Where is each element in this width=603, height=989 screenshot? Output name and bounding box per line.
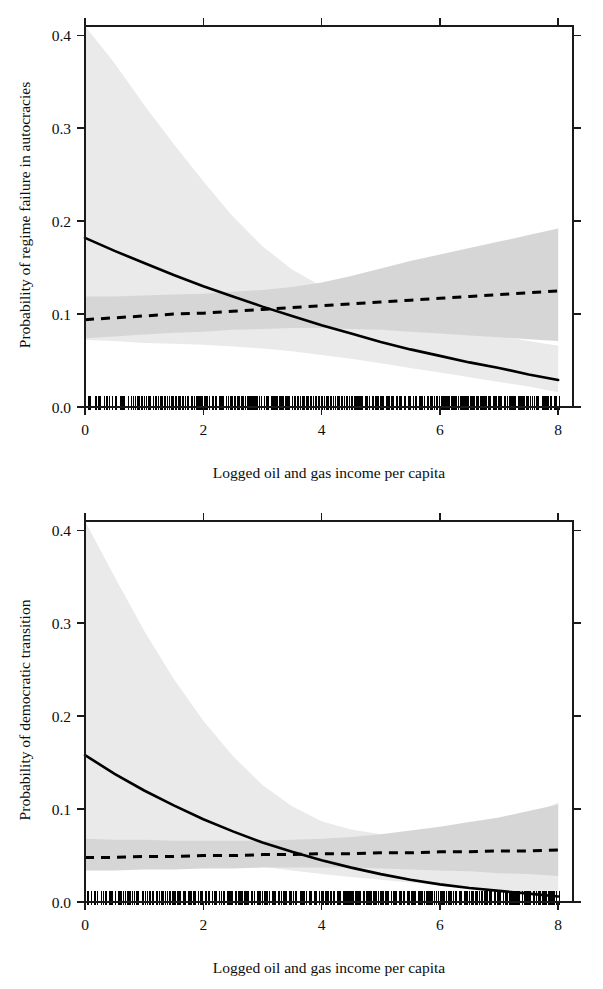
y-axis-tick-label: 0.0 xyxy=(52,399,72,416)
confidence-band-solid-curve xyxy=(85,26,558,392)
x-axis-tick-label: 4 xyxy=(318,916,326,933)
y-axis-tick-label: 0.2 xyxy=(52,213,71,230)
chart-panel-regime-failure: 024680.00.10.20.30.4 Probability of regi… xyxy=(0,0,603,494)
y-axis-title: Probability of regime failure in autocra… xyxy=(16,82,33,348)
y-axis-tick-label: 0.2 xyxy=(52,708,71,725)
plot-area-top: 024680.00.10.20.30.4 xyxy=(52,18,581,438)
y-axis-tick-label: 0.3 xyxy=(52,120,72,137)
x-axis-tick-label: 0 xyxy=(81,916,89,933)
x-axis-tick-label: 4 xyxy=(318,421,326,438)
x-axis-tick-label: 8 xyxy=(554,916,562,933)
figure-page: 024680.00.10.20.30.4 Probability of regi… xyxy=(0,0,603,989)
x-axis-tick-label: 2 xyxy=(199,916,207,933)
y-axis-tick-label: 0.1 xyxy=(52,306,71,323)
y-axis-tick-label: 0.4 xyxy=(52,522,72,539)
x-axis-tick-label: 6 xyxy=(436,916,444,933)
y-axis-tick-label: 0.3 xyxy=(52,615,72,632)
y-axis-tick-label: 0.1 xyxy=(52,801,71,818)
x-axis-tick-label: 6 xyxy=(436,421,444,438)
chart-svg-top: 024680.00.10.20.30.4 Probability of regi… xyxy=(0,0,603,494)
x-axis-tick-label: 0 xyxy=(81,421,89,438)
x-axis-tick-label: 2 xyxy=(199,421,207,438)
y-axis-tick-label: 0.0 xyxy=(52,894,72,911)
x-axis-title: Logged oil and gas income per capita xyxy=(213,464,446,481)
y-axis-tick-label: 0.4 xyxy=(52,27,72,44)
x-axis-title: Logged oil and gas income per capita xyxy=(213,959,446,976)
y-axis-title: Probability of democratic transition xyxy=(16,599,33,820)
x-axis-tick-label: 8 xyxy=(554,421,562,438)
chart-svg-bottom: 024680.00.10.20.30.4 Probability of demo… xyxy=(0,495,603,989)
chart-panel-democratic-transition: 024680.00.10.20.30.4 Probability of demo… xyxy=(0,495,603,989)
plot-area-bottom: 024680.00.10.20.30.4 xyxy=(52,513,581,933)
